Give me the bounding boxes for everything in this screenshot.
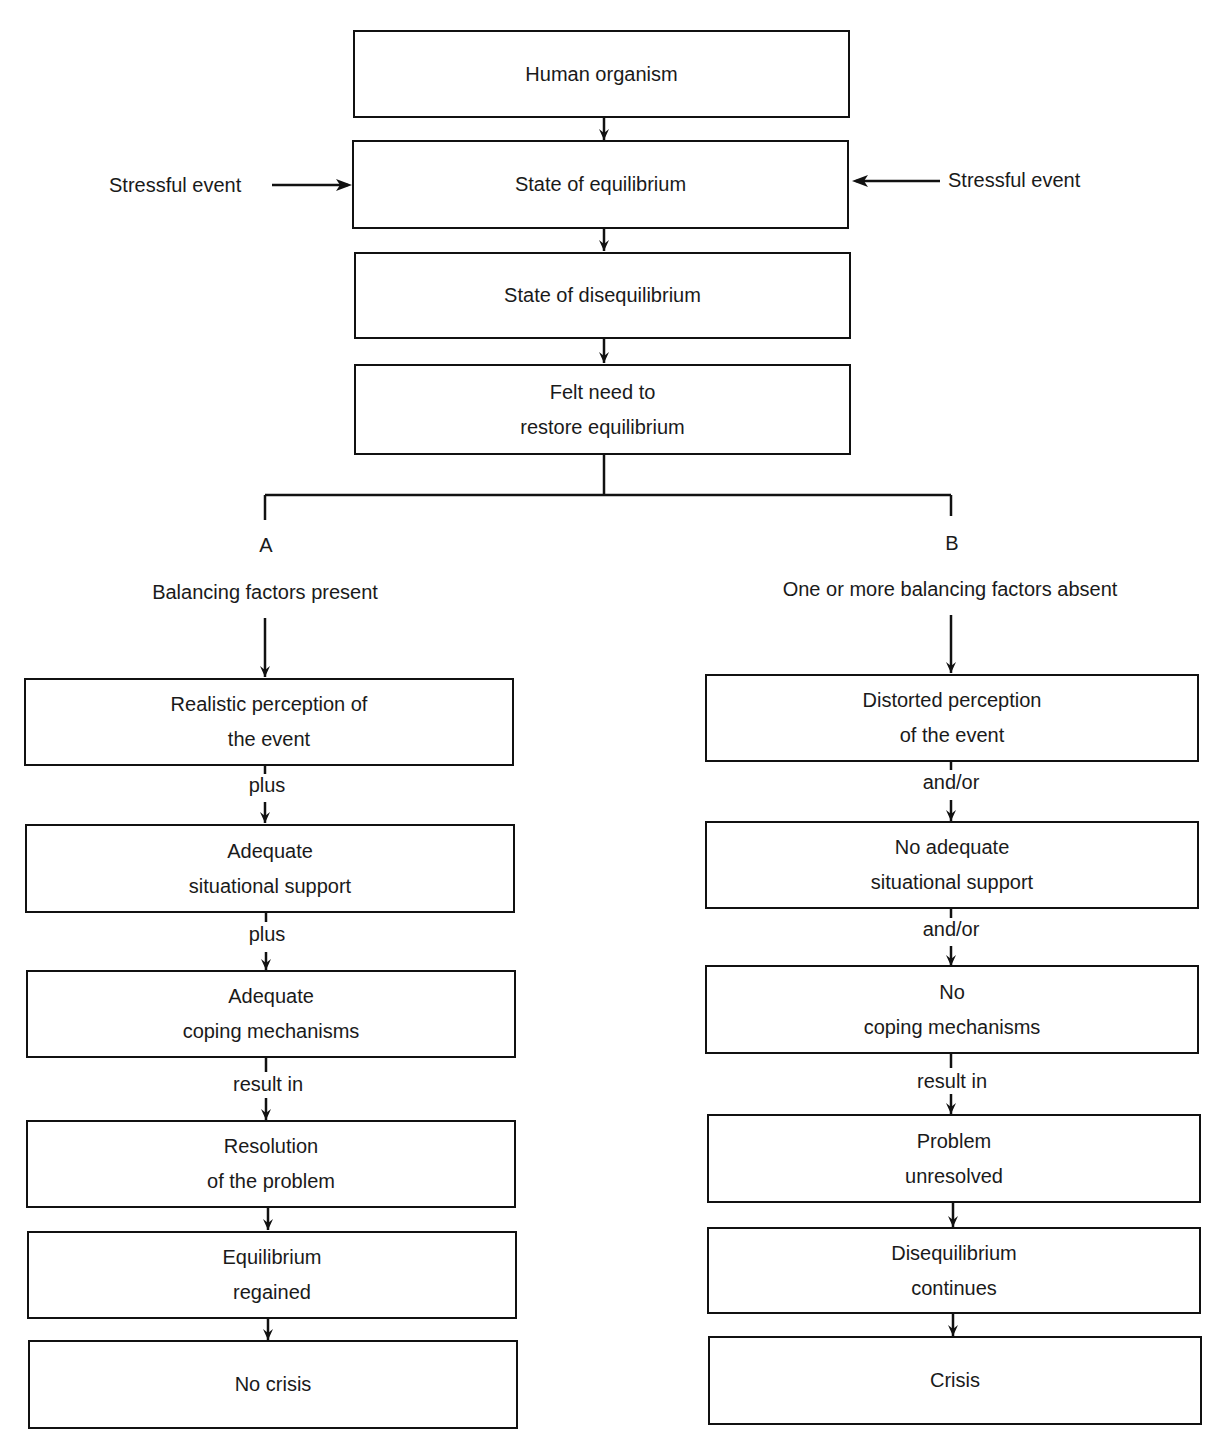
box-realistic-perception: Realistic perception of the event [24,678,514,766]
box-text: State of equilibrium [515,167,686,202]
box-text: No crisis [235,1367,312,1402]
connector-label-and-or-2: and/or [923,918,980,941]
box-felt-need: Felt need to restore equilibrium [354,364,851,455]
box-text-line2: of the problem [207,1164,335,1199]
box-text-line1: Felt need to [550,375,656,410]
connector-label-and-or-1: and/or [923,771,980,794]
box-state-of-equilibrium: State of equilibrium [352,140,849,229]
box-text-line2: restore equilibrium [520,410,685,445]
branch-a-letter: A [259,534,272,557]
box-distorted-perception: Distorted perception of the event [705,674,1199,762]
box-text: Crisis [930,1363,980,1398]
connector-label-plus-2: plus [249,923,286,946]
box-text-line2: situational support [189,869,351,904]
box-text-line2: continues [911,1271,997,1306]
box-text: State of disequilibrium [504,278,701,313]
box-text-line1: Resolution [224,1129,319,1164]
connector-label-result-in-a: result in [233,1073,303,1096]
box-text-line1: Disequilibrium [891,1236,1017,1271]
box-text-line1: Adequate [228,979,314,1014]
connector-label-result-in-b: result in [917,1070,987,1093]
box-problem-unresolved: Problem unresolved [707,1114,1201,1203]
connector-label-plus-1: plus [249,774,286,797]
box-text-line1: No adequate [895,830,1010,865]
box-text-line1: Realistic perception of [171,687,368,722]
box-disequilibrium-continues: Disequilibrium continues [707,1227,1201,1314]
box-text-line2: situational support [871,865,1033,900]
box-text-line1: No [939,975,965,1010]
box-resolution-of-problem: Resolution of the problem [26,1120,516,1208]
stressful-event-left-label: Stressful event [109,174,241,197]
box-equilibrium-regained: Equilibrium regained [27,1231,517,1319]
box-human-organism: Human organism [353,30,850,118]
box-no-crisis: No crisis [28,1340,518,1429]
box-text: Human organism [525,57,677,92]
box-text-line1: Equilibrium [223,1240,322,1275]
box-text-line2: regained [233,1275,311,1310]
box-text-line2: coping mechanisms [183,1014,360,1049]
box-text-line1: Problem [917,1124,991,1159]
box-no-adequate-situational-support: No adequate situational support [705,821,1199,909]
box-state-of-disequilibrium: State of disequilibrium [354,252,851,339]
box-text-line2: unresolved [905,1159,1003,1194]
box-adequate-situational-support: Adequate situational support [25,824,515,913]
branch-a-heading: Balancing factors present [152,581,378,604]
branch-b-heading: One or more balancing factors absent [783,578,1118,601]
box-text-line2: the event [228,722,310,757]
box-text-line1: Distorted perception [863,683,1042,718]
box-text-line2: of the event [900,718,1005,753]
box-no-coping-mechanisms: No coping mechanisms [705,965,1199,1054]
stressful-event-right-label: Stressful event [948,169,1080,192]
box-adequate-coping-mechanisms: Adequate coping mechanisms [26,970,516,1058]
box-text-line2: coping mechanisms [864,1010,1041,1045]
branch-b-letter: B [945,532,958,555]
box-crisis: Crisis [708,1336,1202,1425]
box-text-line1: Adequate [227,834,313,869]
